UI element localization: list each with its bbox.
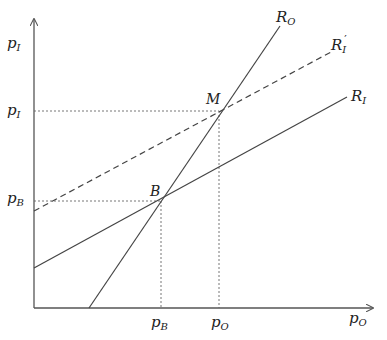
point-B-label: B (149, 183, 160, 199)
curve-R-O (89, 26, 280, 308)
x-tick-pO: pO (211, 313, 229, 332)
label-R-I-prime: RI′ (330, 33, 347, 55)
point-M-label: M (205, 91, 221, 107)
reaction-curves-diagram: RO RI′ RI M B pI pI pB pB pO pO (0, 0, 387, 340)
x-tick-pB: pB (151, 313, 168, 332)
y-tick-pI: pI (7, 101, 22, 120)
label-R-O: RO (275, 8, 296, 27)
label-R-I: RI (350, 87, 367, 106)
y-tick-pB: pB (7, 189, 24, 208)
x-axis-label: pO (349, 309, 367, 328)
curve-R-I (34, 97, 347, 268)
y-axis-label: pI (7, 34, 22, 53)
